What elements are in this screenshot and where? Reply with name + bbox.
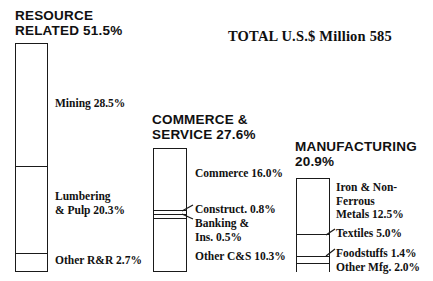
group-heading-commerce-service: COMMERCE & SERVICE 27.6% [152,112,256,142]
bar-segment-textiles [297,234,329,257]
segment-label-lumbering-pulp: Lumbering & Pulp 20.3% [55,190,125,217]
bar-commerce-service [153,148,187,272]
bar-resource-related [15,43,48,272]
bar-segment-iron-nonferrous-metals [297,179,329,234]
segment-label-textiles: Textiles 5.0% [336,227,402,241]
segment-label-other-rr: Other R&R 2.7% [55,254,142,268]
segment-label-iron-nonferrous-metals: Iron & Non-Ferrous Metals 12.5% [336,181,433,222]
segment-label-mining: Mining 28.5% [55,97,125,111]
segment-label-banking-ins: Banking & Ins. 0.5% [195,217,249,244]
bar-segment-mining [16,44,47,166]
stacked-bar-chart: TOTAL U.S.$ Million 585 RESOURCE RELATED… [0,0,433,281]
bar-segment-other-cs [154,218,186,271]
segment-label-construct: Construct. 0.8% [195,203,276,217]
bar-segment-lumbering-pulp [16,166,47,254]
bar-segment-other-mfg [297,263,329,272]
segment-label-foodstuffs: Foodstuffs 1.4% [336,247,417,261]
group-heading-resource-related: RESOURCE RELATED 51.5% [15,8,122,38]
bar-segment-commerce [154,149,186,210]
bar-manufacturing [296,178,330,272]
segment-label-other-mfg: Other Mfg. 2.0% [336,261,420,275]
bar-segment-other-rr [16,253,47,270]
segment-label-other-cs: Other C&S 10.3% [195,250,286,264]
chart-title: TOTAL U.S.$ Million 585 [228,28,392,45]
group-heading-manufacturing: MANUFACTURING 20.9% [295,139,417,169]
segment-label-commerce: Commerce 16.0% [195,167,283,181]
